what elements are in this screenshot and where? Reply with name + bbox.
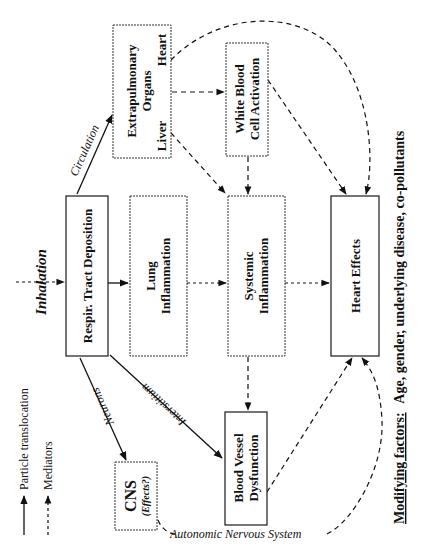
- node-cns: CNS (Effects?): [115, 462, 157, 530]
- arrow-autonomic-to-heart: [158, 358, 382, 534]
- lung-line-1: Lung: [143, 261, 158, 291]
- pathway-diagram: Extrapulmonary Organs Heart Liver White …: [0, 0, 421, 552]
- lung-line-2: Inflammation: [158, 237, 173, 314]
- modifying-factors-text: Age, gender, underlying disease, co-poll…: [392, 130, 407, 403]
- neurons-label: Neurons: [88, 385, 118, 429]
- autonomic-label: Autonomic Nervous System: [169, 527, 302, 541]
- modifying-factors-label: Modifying factors:: [392, 412, 407, 524]
- node-systemic-inflammation: Systemic Inflammation: [228, 196, 285, 356]
- cns-title: CNS: [122, 480, 139, 512]
- arrow-blood-vessel-to-heart: [267, 358, 352, 492]
- systemic-line-2: Inflammation: [256, 237, 271, 314]
- svg-text:Modifying factors: Age,: Modifying factors: Age, gender, underlyi…: [392, 130, 407, 524]
- node-blood-vessel-dysfunction: Blood Vessel Dysfunction: [225, 412, 267, 525]
- systemic-line-1: Systemic: [241, 251, 256, 300]
- inhalation-label: Inhalation: [33, 249, 49, 316]
- arrow-liver-to-systemic: [171, 133, 225, 193]
- respir-tract-label: Respir. Tract Deposition: [80, 208, 95, 343]
- modifying-factors: Modifying factors: Age, gender, underlyi…: [392, 130, 407, 524]
- blood-vessel-line-1: Blood Vessel: [231, 433, 246, 502]
- node-white-blood-cell-activation: White Blood Cell Activation: [226, 43, 268, 156]
- arrow-heart-organ-to-heart-effects: [171, 21, 370, 194]
- heart-effects-label: Heart Effects: [348, 239, 363, 313]
- interstitium-label: Interstitium: [138, 380, 189, 429]
- node-heart-effects: Heart Effects: [331, 196, 379, 356]
- arrow-wbc-to-heart: [268, 80, 346, 194]
- wbc-line-1: White Blood: [232, 63, 247, 133]
- cns-subtitle: (Effects?): [140, 476, 152, 516]
- extrapulmonary-liver: Liver: [154, 121, 169, 152]
- legend: Particle translocation Mediators: [17, 388, 55, 535]
- node-respiratory-tract-deposition: Respir. Tract Deposition: [66, 196, 108, 356]
- extrapulmonary-heart: Heart: [154, 33, 169, 66]
- node-lung-inflammation: Lung Inflammation: [130, 196, 187, 356]
- blood-vessel-line-2: Dysfunction: [246, 434, 261, 502]
- legend-dashed-label: Mediators: [41, 441, 55, 490]
- node-extrapulmonary-organs: Extrapulmonary Organs Heart Liver: [113, 25, 171, 158]
- extrapulmonary-title-1: Extrapulmonary: [124, 44, 139, 138]
- legend-solid-label: Particle translocation: [17, 388, 31, 490]
- extrapulmonary-title-2: Organs: [139, 70, 154, 111]
- wbc-line-2: Cell Activation: [247, 57, 262, 140]
